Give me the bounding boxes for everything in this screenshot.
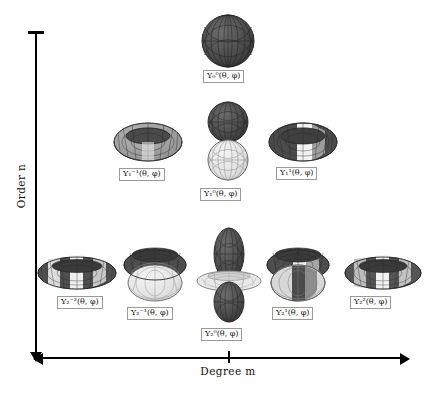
- y-axis-label: Order n: [15, 151, 27, 221]
- harmonic-surface-Y00: [196, 12, 260, 70]
- harmonic-label-Y2m1: Y₂⁻¹(θ, φ): [127, 307, 173, 320]
- figure-canvas: Order n Degree m: [0, 0, 431, 399]
- harmonic-surface-Y1m1: [112, 120, 184, 164]
- harmonic-surface-Y22: [343, 249, 423, 293]
- harmonic-label-Y1m1: Y₁⁻¹(θ, φ): [119, 168, 165, 181]
- harmonic-label-Y22: Y₂²(θ, φ): [350, 296, 391, 309]
- harmonic-label-Y2m2: Y₂⁻²(θ, φ): [57, 296, 103, 309]
- harmonic-label-Y20: Y₂⁰(θ, φ): [201, 328, 242, 341]
- harmonic-surface-Y10: [198, 100, 258, 184]
- harmonic-label-Y00: Y₀⁰(θ, φ): [203, 70, 244, 83]
- harmonic-surface-Y2m2: [36, 249, 118, 293]
- x-axis-line: [40, 357, 405, 359]
- harmonic-label-Y11: Y₁¹(θ, φ): [276, 167, 317, 180]
- x-axis-center-tick: [228, 351, 230, 363]
- x-axis-arrow-right-icon: [400, 353, 410, 365]
- harmonic-label-Y21: Y₂¹(θ, φ): [272, 307, 313, 320]
- harmonic-surface-Y2m1: [120, 243, 190, 305]
- harmonic-label-Y10: Y₁⁰(θ, φ): [200, 188, 241, 201]
- harmonic-surface-Y11: [267, 120, 339, 164]
- x-axis-arrow-left-icon: [33, 353, 43, 365]
- y-axis-line: [35, 32, 37, 357]
- x-axis-label: Degree m: [168, 365, 288, 377]
- y-axis-cap: [28, 31, 44, 34]
- harmonic-surface-Y20: [196, 228, 262, 324]
- harmonic-surface-Y21: [263, 243, 333, 305]
